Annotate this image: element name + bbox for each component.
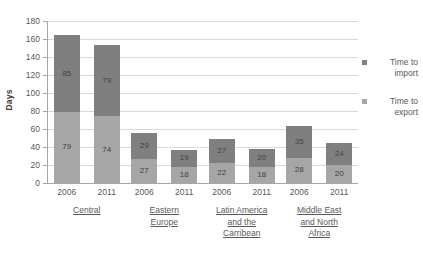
x-tick-label-year: 2006 [135, 187, 154, 197]
legend-item-time-to-export[interactable]: Time to export [362, 96, 423, 118]
gridline [48, 39, 358, 40]
y-tick-mark [43, 111, 48, 112]
bar-value-label: 74 [102, 146, 111, 154]
legend-item-label: Time to export [370, 96, 418, 118]
y-tick-mark [43, 165, 48, 166]
bar-segment-export[interactable]: 18 [171, 167, 197, 183]
y-tick-mark [43, 183, 48, 184]
bar-segment-import[interactable]: 27 [209, 139, 235, 163]
x-axis-group-label: Middle Eastand NorthAfrica [297, 205, 341, 240]
x-tick-label-year: 2006 [57, 187, 76, 197]
bar-value-label: 20 [257, 154, 266, 162]
x-axis-group-label: Central [73, 205, 100, 217]
plot-area: 85797974292719182722201835282420 [48, 21, 358, 183]
y-tick-label: 40 [31, 142, 40, 152]
x-axis-line [48, 183, 358, 184]
x-axis-group-label: Latin Americaand theCarribean [216, 205, 268, 240]
y-tick-label: 180 [26, 16, 40, 26]
group-label-line: Africa [308, 228, 330, 238]
y-tick-mark [43, 39, 48, 40]
y-tick-label: 20 [31, 160, 40, 170]
stacked-bar[interactable]: 2018 [249, 149, 275, 183]
y-tick-label: 80 [31, 106, 40, 116]
bar-segment-import[interactable]: 24 [326, 143, 352, 165]
group-label-line: Carribean [223, 228, 260, 238]
y-tick-label: 0 [35, 178, 40, 188]
legend-color-swatch [362, 60, 367, 65]
stacked-bar[interactable]: 2927 [131, 133, 157, 183]
bar-value-label: 20 [335, 170, 344, 178]
group-label-line: Middle East [297, 205, 341, 215]
bar-segment-export[interactable]: 79 [54, 112, 80, 183]
x-tick-label-year: 2006 [212, 187, 231, 197]
y-axis-title: Days [4, 89, 14, 110]
group-label-line: and North [301, 217, 338, 227]
legend-color-swatch [362, 99, 367, 104]
y-tick-label: 140 [26, 52, 40, 62]
bar-segment-import[interactable]: 19 [171, 150, 197, 167]
legend-item-time-to-import[interactable]: Time to import [362, 57, 423, 79]
bar-value-label: 85 [62, 70, 71, 78]
y-tick-mark [43, 57, 48, 58]
y-tick-mark [43, 93, 48, 94]
x-tick-label-year: 2006 [290, 187, 309, 197]
bar-value-label: 27 [217, 147, 226, 155]
y-tick-mark [43, 75, 48, 76]
bar-value-label: 19 [180, 154, 189, 162]
group-label-line: Central [73, 205, 100, 215]
y-tick-label: 160 [26, 34, 40, 44]
y-tick-label: 100 [26, 88, 40, 98]
y-tick-mark [43, 129, 48, 130]
stacked-bar[interactable]: 1918 [171, 150, 197, 183]
bar-value-label: 22 [217, 169, 226, 177]
y-tick-label: 120 [26, 70, 40, 80]
group-label-line: Eastern [150, 205, 179, 215]
group-label-line: Latin America [216, 205, 268, 215]
y-tick-mark [43, 147, 48, 148]
bar-segment-export[interactable]: 20 [326, 165, 352, 183]
bar-value-label: 35 [295, 138, 304, 146]
bar-value-label: 24 [335, 150, 344, 158]
stacked-bar[interactable]: 2420 [326, 143, 352, 183]
stacked-bar[interactable]: 7974 [94, 45, 120, 183]
bar-value-label: 79 [102, 77, 111, 85]
bar-value-label: 18 [180, 171, 189, 179]
bar-segment-export[interactable]: 27 [131, 159, 157, 183]
x-axis-group-label: EasternEurope [150, 205, 179, 228]
bar-segment-export[interactable]: 22 [209, 163, 235, 183]
bar-segment-import[interactable]: 35 [286, 126, 312, 158]
bar-segment-import[interactable]: 79 [94, 45, 120, 116]
y-tick-mark [43, 21, 48, 22]
bar-segment-export[interactable]: 74 [94, 116, 120, 183]
bar-segment-import[interactable]: 29 [131, 133, 157, 159]
legend-item-label: Time to import [370, 57, 418, 79]
y-tick-label: 60 [31, 124, 40, 134]
bar-segment-import[interactable]: 85 [54, 35, 80, 112]
y-axis-tick-labels: 180160140120100806040200 [0, 0, 40, 258]
bar-segment-export[interactable]: 28 [286, 158, 312, 183]
x-tick-label-year: 2011 [98, 187, 116, 197]
bar-segment-import[interactable]: 20 [249, 149, 275, 167]
stacked-bar[interactable]: 3528 [286, 126, 312, 183]
bar-value-label: 28 [295, 166, 304, 174]
bar-value-label: 18 [257, 171, 266, 179]
gridline [48, 21, 358, 22]
chart-legend: Time to importTime to export [362, 57, 423, 135]
stacked-bar-chart: 180160140120100806040200 Days 8579797429… [0, 0, 423, 258]
bar-value-label: 29 [140, 142, 149, 150]
x-tick-label-year: 2011 [330, 187, 348, 197]
x-tick-label-year: 2011 [175, 187, 193, 197]
group-label-line: Europe [151, 217, 178, 227]
stacked-bar[interactable]: 2722 [209, 139, 235, 183]
bar-value-label: 79 [62, 143, 71, 151]
group-label-line: and the [228, 217, 256, 227]
x-tick-label-year: 2011 [253, 187, 271, 197]
bar-value-label: 27 [140, 167, 149, 175]
bar-segment-export[interactable]: 18 [249, 167, 275, 183]
stacked-bar[interactable]: 8579 [54, 35, 80, 183]
